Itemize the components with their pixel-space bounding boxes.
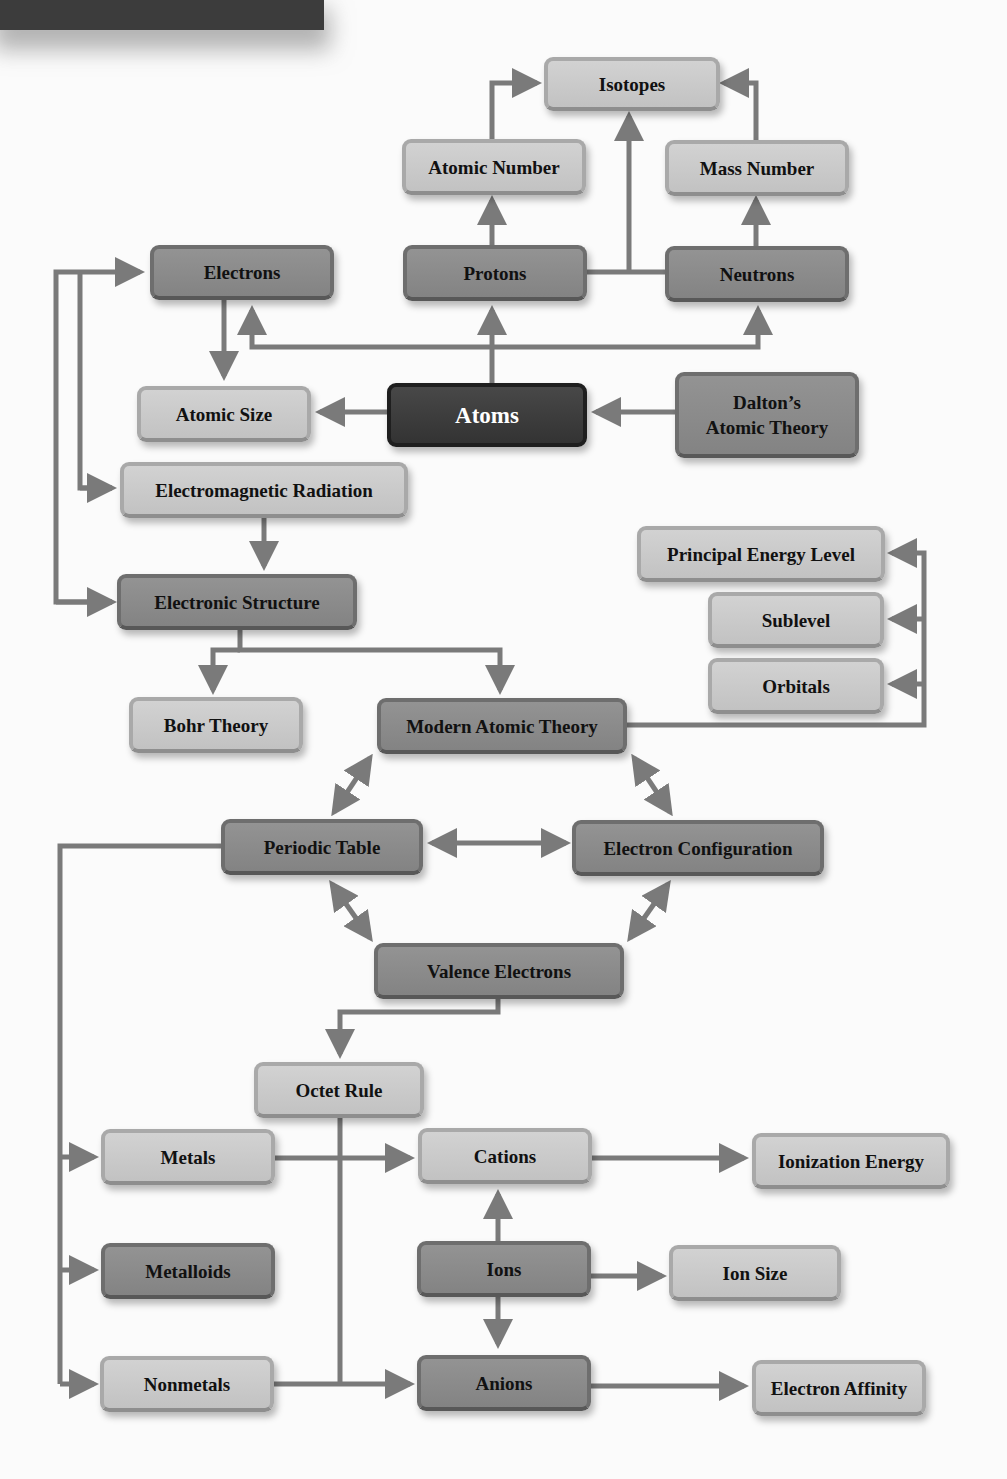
node-atomic-size: Atomic Size <box>137 386 311 442</box>
node-mass-number: Mass Number <box>665 140 849 196</box>
node-electrons: Electrons <box>150 245 334 300</box>
node-label: Anions <box>475 1371 532 1396</box>
node-electromagnetic-radiation: Electromagnetic Radiation <box>120 462 408 518</box>
node-metalloids: Metalloids <box>101 1243 275 1299</box>
node-isotopes: Isotopes <box>544 57 720 111</box>
node-octet-rule: Octet Rule <box>254 1062 424 1118</box>
node-protons: Protons <box>403 245 587 301</box>
node-label: Octet Rule <box>295 1078 382 1103</box>
node-electronic-structure: Electronic Structure <box>117 574 357 630</box>
node-atoms: Atoms <box>387 383 587 447</box>
node-label: Sublevel <box>762 608 831 633</box>
node-label: Electron Configuration <box>603 836 792 861</box>
node-bohr-theory: Bohr Theory <box>129 697 303 753</box>
node-label: Atomic Size <box>176 402 273 427</box>
node-atomic-number: Atomic Number <box>402 139 586 195</box>
node-label: Valence Electrons <box>427 959 571 984</box>
node-electron-configuration: Electron Configuration <box>572 820 824 876</box>
node-label: Isotopes <box>599 72 666 97</box>
node-ion-size: Ion Size <box>669 1245 841 1301</box>
node-label: Electron Affinity <box>771 1376 907 1401</box>
node-label: Protons <box>464 261 527 286</box>
node-label: Electrons <box>204 260 281 285</box>
node-label: Ionization Energy <box>778 1149 924 1174</box>
node-modern-atomic-theory: Modern Atomic Theory <box>377 698 627 754</box>
node-label-line1: Dalton’s <box>733 390 801 415</box>
node-valence-electrons: Valence Electrons <box>374 943 624 999</box>
node-sublevel: Sublevel <box>708 592 884 648</box>
node-label: Electronic Structure <box>154 590 320 615</box>
node-label: Principal Energy Level <box>667 542 855 567</box>
node-metals: Metals <box>101 1129 275 1185</box>
node-neutrons: Neutrons <box>665 246 849 302</box>
node-label: Orbitals <box>762 674 830 699</box>
node-anions: Anions <box>417 1355 591 1411</box>
node-orbitals: Orbitals <box>708 658 884 714</box>
node-electron-affinity: Electron Affinity <box>752 1360 926 1416</box>
node-principal-energy-level: Principal Energy Level <box>637 526 885 582</box>
node-label: Metalloids <box>145 1259 231 1284</box>
node-label: Bohr Theory <box>164 713 268 738</box>
node-label: Metals <box>161 1145 216 1170</box>
node-label: Ions <box>487 1257 522 1282</box>
node-periodic-table: Periodic Table <box>221 819 423 875</box>
node-label: Nonmetals <box>144 1372 231 1397</box>
node-label: Neutrons <box>720 262 795 287</box>
node-label: Ion Size <box>723 1261 788 1286</box>
node-ionization-energy: Ionization Energy <box>752 1133 950 1189</box>
node-ions: Ions <box>417 1241 591 1297</box>
node-nonmetals: Nonmetals <box>100 1356 274 1412</box>
node-daltons-atomic-theory: Dalton’sAtomic Theory <box>675 372 859 458</box>
node-label-line2: Atomic Theory <box>706 415 829 440</box>
node-label: Atoms <box>455 403 519 428</box>
node-label: Electromagnetic Radiation <box>155 478 373 503</box>
node-label: Cations <box>474 1144 536 1169</box>
node-label: Periodic Table <box>264 835 381 860</box>
node-cations: Cations <box>418 1128 592 1184</box>
node-label: Mass Number <box>700 156 815 181</box>
node-label: Modern Atomic Theory <box>406 714 598 739</box>
node-label: Atomic Number <box>428 155 559 180</box>
